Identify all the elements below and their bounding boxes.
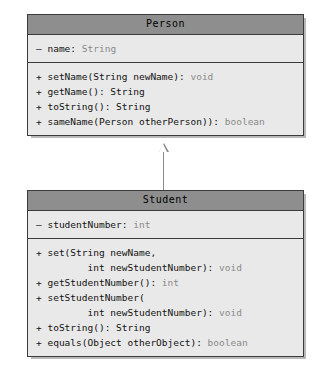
uml-method-row: + setName(String newName): void: [28, 69, 303, 84]
uml-member-signature: equals(Object otherObject):: [42, 337, 208, 348]
uml-member-signature: getName(): String: [42, 86, 145, 97]
uml-method-row: + equals(Object otherObject): boolean: [28, 335, 303, 350]
uml-attribute-row: – name: String: [28, 41, 303, 56]
uml-member-signature: studentNumber:: [42, 219, 134, 230]
generalization-line: [163, 151, 164, 190]
uml-member-type: int: [162, 277, 179, 288]
uml-class-person-methods: + setName(String newName): void+ getName…: [28, 63, 303, 135]
uml-class-person-attributes: – name: String: [28, 35, 303, 63]
uml-member-signature: setStudentNumber(: [42, 292, 145, 303]
uml-member-signature: int newStudentNumber):: [42, 307, 219, 318]
uml-class-student-title: Student: [28, 191, 303, 211]
uml-member-type: String: [82, 43, 116, 54]
uml-member-type: void: [219, 262, 242, 273]
uml-member-signature: sameName(Person otherPerson)):: [42, 116, 225, 127]
uml-method-row: + getName(): String: [28, 84, 303, 99]
uml-class-person-title: Person: [28, 15, 303, 35]
uml-method-row: int newStudentNumber): void: [28, 305, 303, 320]
generalization-arrow-fill-icon: [159, 144, 167, 152]
uml-member-type: boolean: [208, 337, 248, 348]
uml-member-signature: int newStudentNumber):: [42, 262, 219, 273]
uml-method-row: int newStudentNumber): void: [28, 260, 303, 275]
uml-class-student-methods: + set(String newName, int newStudentNumb…: [28, 239, 303, 356]
uml-member-signature: set(String newName,: [42, 247, 156, 258]
uml-class-student[interactable]: Student – studentNumber: int + set(Strin…: [27, 190, 304, 357]
uml-method-row: + sameName(Person otherPerson)): boolean: [28, 114, 303, 129]
uml-class-student-attributes: – studentNumber: int: [28, 211, 303, 239]
uml-method-row: + set(String newName,: [28, 245, 303, 260]
uml-class-person[interactable]: Person – name: String + setName(String n…: [27, 14, 304, 136]
uml-method-row: + setStudentNumber(: [28, 290, 303, 305]
uml-member-signature: name:: [42, 43, 82, 54]
uml-method-row: + toString(): String: [28, 320, 303, 335]
uml-member-signature: getStudentNumber():: [42, 277, 162, 288]
uml-member-signature: setName(String newName):: [42, 71, 191, 82]
uml-member-type: int: [133, 219, 150, 230]
uml-member-signature: toString(): String: [42, 322, 151, 333]
uml-member-type: void: [190, 71, 213, 82]
uml-diagram-canvas: Person – name: String + setName(String n…: [0, 0, 329, 382]
uml-method-row: + toString(): String: [28, 99, 303, 114]
uml-member-type: void: [219, 307, 242, 318]
uml-member-type: boolean: [225, 116, 265, 127]
uml-member-signature: toString(): String: [42, 101, 151, 112]
uml-attribute-row: – studentNumber: int: [28, 217, 303, 232]
uml-method-row: + getStudentNumber(): int: [28, 275, 303, 290]
